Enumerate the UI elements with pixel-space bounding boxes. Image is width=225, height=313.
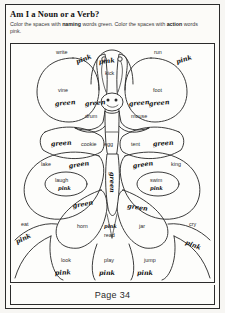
answer-green-foot: green xyxy=(148,98,170,108)
answer-green-mouse: green xyxy=(128,98,150,108)
answer-pink-run: pink xyxy=(175,53,193,66)
label-vine: vine xyxy=(58,87,68,93)
label-king: king xyxy=(171,161,181,167)
answer-pink-write: pink xyxy=(75,52,93,66)
instruction-text-1: Color the spaces with xyxy=(10,21,62,27)
label-swim: swim xyxy=(150,177,163,183)
footer-bar: Page 34 xyxy=(10,285,215,305)
label-play: play xyxy=(104,257,114,263)
instruction-keyword-naming: naming xyxy=(62,21,81,27)
label-lake: lake xyxy=(41,161,51,167)
answer-green-body: green xyxy=(108,172,116,193)
label-write: write xyxy=(55,49,67,55)
label-jar: jar xyxy=(138,223,145,229)
answer-pink-kick: pink xyxy=(98,56,115,66)
answer-pink-swim: pink xyxy=(150,185,163,192)
label-egg: egg xyxy=(104,141,113,147)
label-foot: foot xyxy=(153,87,162,93)
answer-pink-cry: pink xyxy=(184,238,202,252)
wing-space-swim[interactable] xyxy=(137,172,179,196)
label-horn: horn xyxy=(77,223,88,229)
petal-space-play[interactable] xyxy=(129,244,134,280)
header-block: Am I a Noun or a Verb? Color the spaces … xyxy=(10,9,215,35)
page-number: Page 34 xyxy=(95,290,131,300)
petal-space-look[interactable] xyxy=(92,244,97,280)
worksheet-page: Am I a Noun or a Verb? Color the spaces … xyxy=(0,0,225,313)
label-drum: drum xyxy=(85,113,98,119)
butterfly-diagram: write pink pink kick run pink vine green… xyxy=(10,43,215,283)
wing-space-laugh[interactable] xyxy=(45,172,87,196)
instructions: Color the spaces with naming words green… xyxy=(10,21,210,35)
butterfly-thorax[interactable] xyxy=(105,111,119,158)
answer-green-tent: green xyxy=(153,139,174,148)
instruction-text-2: words green. Color the spaces with xyxy=(81,21,165,27)
label-tent: tent xyxy=(131,141,140,147)
answer-green-jar: green xyxy=(127,202,149,213)
label-look: look xyxy=(61,257,71,263)
eye-right-icon xyxy=(115,99,118,102)
page-title: Am I a Noun or a Verb? xyxy=(10,9,215,19)
answer-green-cookie: green xyxy=(51,139,72,148)
label-read: read xyxy=(104,232,115,238)
label-run: run xyxy=(154,49,162,55)
label-eat: eat xyxy=(21,221,29,227)
answer-pink-look: pink xyxy=(55,268,72,277)
label-laugh: laugh xyxy=(55,177,68,183)
answer-pink-read: pink xyxy=(104,223,117,230)
answer-pink-play: pink xyxy=(99,269,116,277)
answer-green-vine: green xyxy=(54,98,76,108)
answer-pink-eat: pink xyxy=(14,231,32,245)
answer-pink-jump: pink xyxy=(137,269,154,277)
answer-pink-laugh: pink xyxy=(58,185,71,192)
label-jump: jump xyxy=(143,257,156,263)
answer-green-lake: green xyxy=(68,159,90,170)
label-kick: kick xyxy=(105,70,115,76)
label-cry: cry xyxy=(189,221,196,227)
instruction-keyword-action: action xyxy=(167,21,183,27)
antenna-right-icon xyxy=(118,60,122,92)
label-mouse: mouse xyxy=(131,113,147,119)
antenna-right-tip-icon xyxy=(118,57,122,61)
answer-green-horn: green xyxy=(72,198,94,210)
label-cookie: cookie xyxy=(81,141,97,147)
answer-green-king: green xyxy=(132,159,154,170)
eye-left-icon xyxy=(107,99,110,102)
